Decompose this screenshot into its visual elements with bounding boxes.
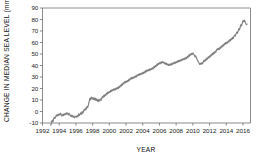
- y-tick-label: 40: [31, 62, 38, 69]
- x-tick-label: 2002: [119, 127, 133, 134]
- x-tick-label: 2004: [136, 127, 150, 134]
- y-tick-label: 80: [31, 16, 38, 23]
- x-tick-label: 1994: [52, 127, 66, 134]
- y-tick-label: 90: [31, 4, 38, 11]
- axis-frame: [43, 8, 251, 123]
- x-tick-label: 1996: [69, 127, 83, 134]
- x-tick-label: 2016: [236, 127, 250, 134]
- chart-canvas: -100102030405060708090 19921994199619982…: [0, 0, 260, 157]
- y-tick-label: 60: [31, 39, 38, 46]
- sea-level-series-line: [51, 20, 247, 125]
- x-tick-label: 2014: [219, 127, 233, 134]
- y-tick-label: 0: [35, 108, 39, 115]
- y-axis-title: CHANGE IN MEDIAN SEA LEVEL (mm): [3, 0, 11, 122]
- y-tick-label: -10: [29, 119, 39, 126]
- plot-frame: [43, 8, 251, 123]
- x-tick-label: 1992: [36, 127, 50, 134]
- x-tick-label: 2012: [203, 127, 217, 134]
- y-tick-label: 30: [31, 73, 38, 80]
- x-tick-label: 2010: [186, 127, 200, 134]
- y-tick-label: 10: [31, 96, 38, 103]
- x-tick-label: 1998: [86, 127, 100, 134]
- x-axis-tick-labels: 1992199419961998200020022004200620082010…: [36, 127, 251, 134]
- x-tick-label: 2006: [153, 127, 167, 134]
- y-tick-label: 70: [31, 27, 38, 34]
- sea-level-chart-figure: -100102030405060708090 19921994199619982…: [0, 0, 260, 157]
- x-tick-label: 2000: [102, 127, 116, 134]
- y-tick-label: 50: [31, 50, 38, 57]
- y-tick-label: 20: [31, 85, 38, 92]
- x-axis-title: YEAR: [137, 146, 156, 153]
- y-axis-tick-labels: -100102030405060708090: [29, 4, 39, 126]
- x-tick-label: 2008: [169, 127, 183, 134]
